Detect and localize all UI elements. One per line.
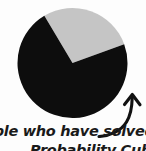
caption-block: ople who have solved Probability Cube <box>0 120 146 151</box>
figure-container: ople who have solved Probability Cube <box>0 0 146 151</box>
pie-chart <box>0 0 146 128</box>
caption-line-2: Probability Cube <box>30 142 146 151</box>
caption-line-1: ople who have solved <box>0 123 146 139</box>
